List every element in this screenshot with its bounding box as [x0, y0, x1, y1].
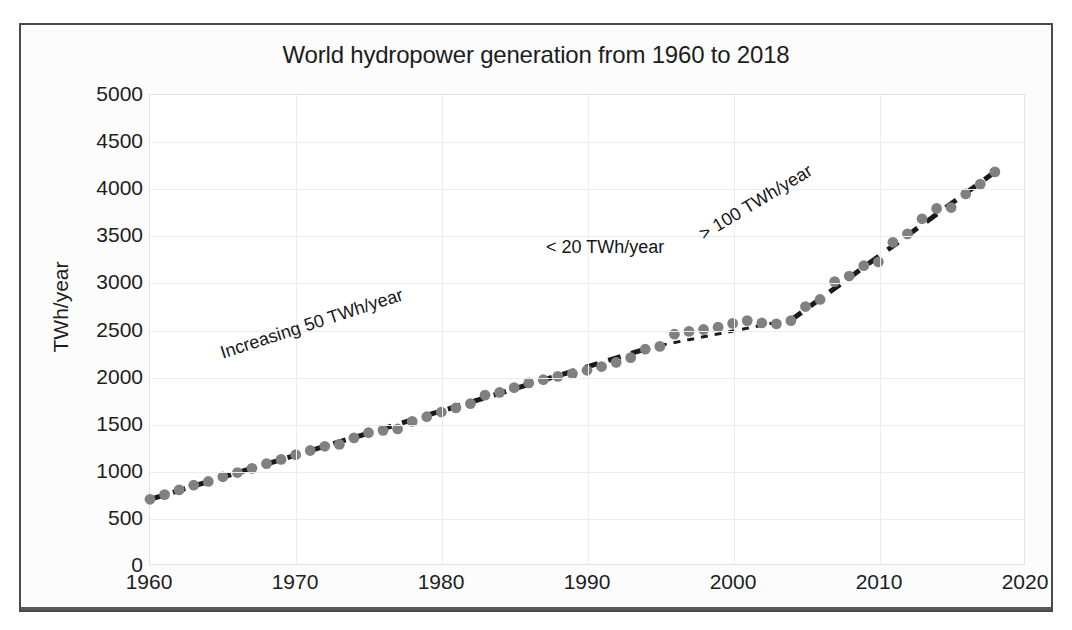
data-point-marker [596, 361, 607, 372]
data-point-marker [873, 257, 884, 268]
data-point-marker [815, 294, 826, 305]
data-point-marker [465, 398, 476, 409]
gridline-vertical [588, 95, 589, 564]
chart-title: World hydropower generation from 1960 to… [21, 41, 1051, 69]
data-point-marker [276, 454, 287, 465]
baseline-rule [21, 607, 1051, 610]
data-point-marker [829, 276, 840, 287]
x-tick-label: 1970 [272, 570, 319, 594]
data-point-marker [494, 387, 505, 398]
data-point-marker [858, 260, 869, 271]
gridline-vertical [880, 95, 881, 564]
data-point-marker [421, 411, 432, 422]
data-point-marker [756, 318, 767, 329]
figure-frame: World hydropower generation from 1960 to… [19, 23, 1053, 612]
data-point-marker [334, 439, 345, 450]
data-point-marker [188, 480, 199, 491]
y-tick-label: 500 [71, 506, 143, 530]
data-point-marker [523, 378, 534, 389]
data-point-marker [960, 189, 971, 200]
y-tick-label: 3000 [71, 270, 143, 294]
y-tick-label: 5000 [71, 82, 143, 106]
y-tick-label: 2000 [71, 365, 143, 389]
data-point-marker [217, 471, 228, 482]
gridline-vertical [734, 95, 735, 564]
y-tick-label: 3500 [71, 223, 143, 247]
x-tick-label: 2020 [1002, 570, 1049, 594]
data-point-marker [349, 432, 360, 443]
gridline-horizontal [150, 425, 1024, 426]
gridline-vertical [442, 95, 443, 564]
data-point-marker [975, 179, 986, 190]
data-point-marker [363, 427, 374, 438]
y-tick-label: 2500 [71, 318, 143, 342]
x-axis-tick-labels: 1960197019801990200020102020 [149, 570, 1025, 604]
gridline-horizontal [150, 472, 1024, 473]
data-point-marker [902, 228, 913, 239]
gridline-horizontal [150, 519, 1024, 520]
annotation-plateau: < 20 TWh/year [546, 237, 664, 258]
data-point-marker [378, 425, 389, 436]
data-point-marker [888, 237, 899, 248]
gridline-horizontal [150, 142, 1024, 143]
data-point-marker [844, 271, 855, 282]
y-tick-label: 4000 [71, 176, 143, 200]
x-tick-label: 1980 [418, 570, 465, 594]
data-point-marker [742, 315, 753, 326]
gridline-horizontal [150, 283, 1024, 284]
y-tick-label: 4500 [71, 129, 143, 153]
data-point-marker [698, 324, 709, 335]
data-point-marker [509, 382, 520, 393]
data-point-marker [582, 365, 593, 376]
data-point-marker [611, 357, 622, 368]
gridline-horizontal [150, 378, 1024, 379]
y-axis-tick-labels: 0500100015002000250030003500400045005000 [57, 94, 143, 565]
data-point-marker [538, 374, 549, 385]
data-point-marker [786, 315, 797, 326]
data-point-marker [319, 441, 330, 452]
x-tick-label: 1960 [126, 570, 173, 594]
data-point-marker [552, 371, 563, 382]
data-point-marker [480, 390, 491, 401]
y-tick-label: 1000 [71, 459, 143, 483]
data-point-marker [174, 485, 185, 496]
data-point-marker [654, 341, 665, 352]
data-point-marker [261, 458, 272, 469]
x-tick-label: 2010 [856, 570, 903, 594]
gridline-horizontal [150, 189, 1024, 190]
data-point-marker [625, 352, 636, 363]
data-point-marker [989, 167, 1000, 178]
data-point-marker [159, 489, 170, 500]
data-point-marker [451, 402, 462, 413]
data-point-marker [931, 203, 942, 214]
data-point-marker [946, 202, 957, 213]
data-point-marker [640, 344, 651, 355]
x-tick-label: 2000 [710, 570, 757, 594]
data-point-marker [203, 476, 214, 487]
data-point-marker [145, 494, 156, 505]
data-point-marker [917, 213, 928, 224]
data-point-marker [800, 301, 811, 312]
y-tick-label: 1500 [71, 412, 143, 436]
data-point-marker [727, 318, 738, 329]
x-tick-label: 1990 [564, 570, 611, 594]
data-point-marker [305, 445, 316, 456]
data-point-marker [771, 318, 782, 329]
